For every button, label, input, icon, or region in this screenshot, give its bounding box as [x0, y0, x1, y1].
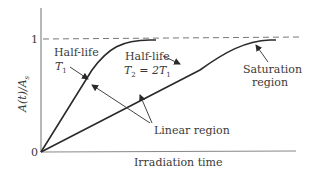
- y-tick-1: 1: [31, 33, 38, 46]
- saturation-level-line: [43, 37, 302, 39]
- label-saturation-line1: Saturation: [243, 63, 302, 76]
- label-t1-line1: Half-life: [54, 46, 99, 59]
- arrow-linear-2: [140, 95, 152, 123]
- x-axis: [41, 151, 296, 152]
- arrow-t1-label: [70, 67, 88, 79]
- arrow-saturation: [256, 45, 268, 62]
- label-linear-region: Linear region: [154, 124, 230, 137]
- y-axis-label: A(t)/As: [16, 75, 31, 113]
- label-saturation-line2: region: [252, 76, 288, 89]
- x-axis-label: Irradiation time: [134, 156, 223, 169]
- activity-diagram: 1 0 A(t)/As Irradiation time Half-life T…: [0, 0, 313, 176]
- label-t1-line2: T1: [55, 60, 67, 75]
- label-t2-line2: T2 = 2T1: [124, 64, 171, 79]
- y-tick-0: 0: [31, 146, 38, 159]
- arrow-linear-1: [92, 85, 150, 123]
- label-t2-line1: Half-life: [125, 50, 170, 63]
